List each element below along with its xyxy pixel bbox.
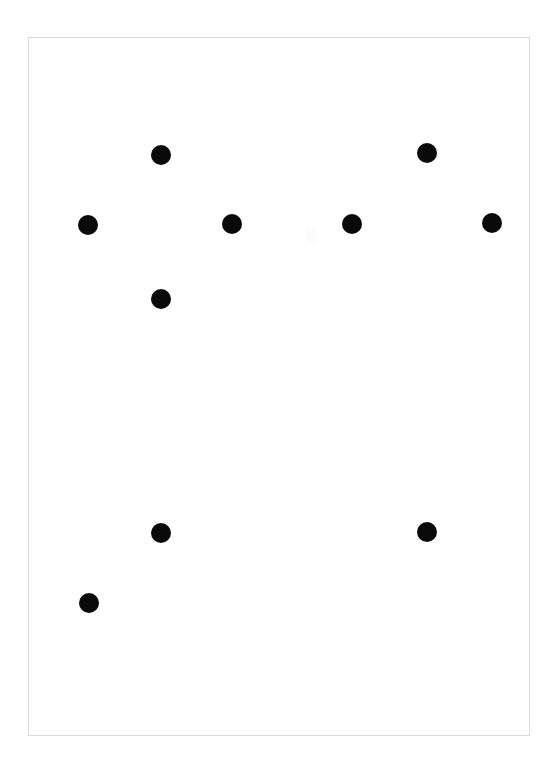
dot-marker[interactable] [222,214,242,234]
dot-marker[interactable] [342,214,362,234]
dot-marker[interactable] [151,523,171,543]
dot-pattern-canvas [0,0,558,774]
border-frame [28,37,530,736]
dot-marker[interactable] [151,289,171,309]
dot-marker[interactable] [79,593,99,613]
dot-marker[interactable] [482,213,502,233]
dot-marker[interactable] [417,522,437,542]
dot-marker[interactable] [78,215,98,235]
dot-marker[interactable] [417,143,437,163]
dot-marker[interactable] [151,145,171,165]
